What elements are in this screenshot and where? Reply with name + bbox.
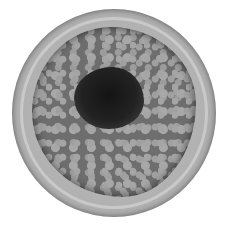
narrowed-lumen xyxy=(74,67,144,129)
artery-cross-section xyxy=(12,9,216,217)
